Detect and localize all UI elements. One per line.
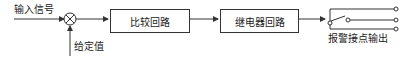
- setpoint-label: 给定值: [74, 42, 104, 52]
- alarm-contact-switch-icon: [328, 7, 398, 31]
- diagram-lines: [0, 0, 404, 58]
- summing-junction-icon: [64, 13, 76, 25]
- compare-circuit-block: 比较回路: [110, 9, 190, 33]
- alarm-contact-output-label: 报警接点输出: [328, 34, 388, 44]
- alarm-block-diagram: 输入信号 给定值 比较回路 继电器回路 报警接点输出: [0, 0, 404, 58]
- input-signal-label: 输入信号: [14, 5, 54, 15]
- relay-circuit-block: 继电器回路: [220, 9, 299, 33]
- compare-circuit-label: 比较回路: [130, 14, 170, 29]
- relay-circuit-label: 继电器回路: [235, 14, 285, 29]
